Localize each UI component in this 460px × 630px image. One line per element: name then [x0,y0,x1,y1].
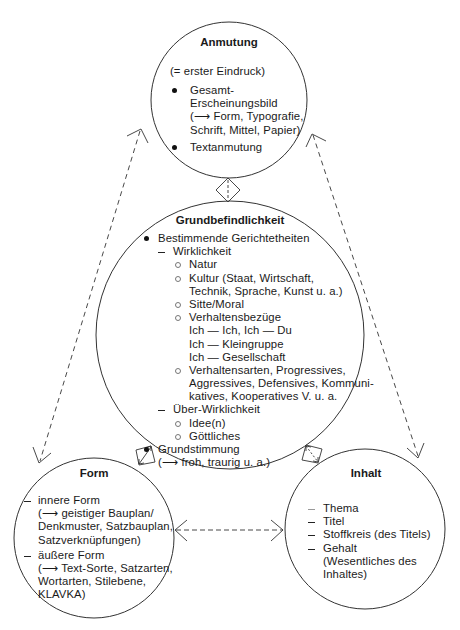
aeussere-form-label: äußere Form [38,549,104,562]
kultur-label: Technik, Sprache, Kunst u. a.) [189,285,343,298]
anmutung-line: (⟶ Form, Typografie, [190,110,303,123]
verhaltensarten-label: Aggressives, Defensives, Kommuni- [189,377,374,390]
dash-icon [308,549,315,550]
inhalt-item-line: (Wesentliches des [323,555,417,568]
dash-icon [24,501,31,502]
ueber-wirklichkeit-label: Über-Wirklichkeit [173,403,260,416]
gerichtetheiten-label: Bestimmende Gerichtetheiten [158,232,310,245]
diamond-connector-top [216,178,240,202]
bullet-icon [144,447,149,452]
inhalt-title: Inhalt [340,467,392,479]
anmutung-line: Schrift, Mittel, Papier) [190,124,303,137]
innere-form-line: (⟶ geistiger Bauplan/ [38,507,154,520]
dash-icon [24,556,31,557]
dash-icon [308,509,315,510]
idee-label: Idee(n) [189,417,226,430]
aeussere-form-line: Wortarten, Stilebene, [38,575,146,588]
natur-label: Natur [189,258,217,271]
ring-icon [175,421,181,427]
dashed-arrow-form-inhalt [175,520,283,541]
form-title: Form [70,467,118,479]
anmutung-item-2: Textanmutung [170,141,262,154]
ring-icon [175,302,181,308]
dash-icon [158,410,165,411]
inhalt-item-label: Stoffkreis (des Titels) [323,528,431,541]
dash-icon [308,522,315,523]
aeussere-form-line: (⟶ Text-Sorte, Satzarten, [38,562,173,575]
anmutung-subtitle: (= erster Eindruck) [170,65,265,78]
verhaltensarten-label: katives, Kooperatives V. u. a. [189,390,337,403]
dash-icon [158,252,165,253]
anmutung-line: Gesamt- [190,84,303,97]
bezug-label: Ich — Gesellschaft [189,351,286,364]
dashed-arrow-anmutung-form [33,129,148,463]
ring-icon [175,434,181,440]
ring-icon [175,368,181,374]
anmutung-item-1: Gesamt- Erscheinungsbild (⟶ Form, Typogr… [170,84,303,137]
bezug-label: Ich — Kleingruppe [189,338,284,351]
bullet-icon [172,145,177,150]
inhalt-item-label: Gehalt [323,542,357,555]
inhalt-item-line: Inhaltes) [323,568,367,581]
anmutung-title: Anmutung [190,36,268,48]
verhaltensbezuege-label: Verhaltensbezüge [189,311,281,324]
verhaltensarten-label: Verhaltensarten, Progressives, [189,364,346,377]
sitte-label: Sitte/Moral [189,298,244,311]
dash-icon [308,535,315,536]
grundbefindlichkeit-title: Grundbefindlichkeit [170,214,290,226]
diamond-connector-right [302,445,322,463]
anmutung-line: Erscheinungsbild [190,97,303,110]
aeussere-form-line: KLAVKA) [38,588,86,601]
grundstimmung-label: (⟶ froh, traurig u. a.) [158,456,270,469]
inhalt-item-label: Titel [323,515,344,528]
bezug-label: Ich — Ich, Ich — Du [189,324,292,337]
wirklichkeit-label: Wirklichkeit [173,245,231,258]
kultur-label: Kultur (Staat, Wirtschaft, [189,272,314,285]
inhalt-item-label: Thema [323,502,359,515]
innere-form-line: Satzverknüpfungen) [38,534,141,547]
innere-form-line: Denkmuster, Satzbauplan, [38,520,173,533]
bullet-icon [144,236,149,241]
ring-icon [175,276,181,282]
innere-form-label: innere Form [38,494,100,507]
grundstimmung-label: Grundstimmung [158,443,240,456]
bullet-icon [172,88,177,93]
goettliches-label: Göttliches [189,430,240,443]
anmutung-line: Textanmutung [170,141,262,153]
